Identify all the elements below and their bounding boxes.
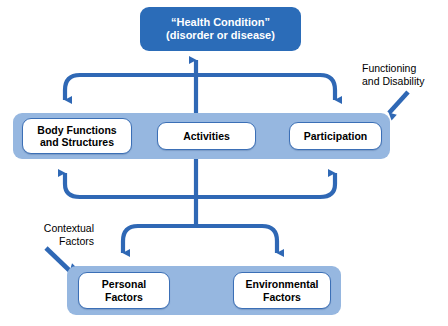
node-body-functions-line2: and Structures <box>37 136 116 149</box>
label-functioning-line1: Functioning <box>362 62 444 75</box>
label-contextual-line2: Factors <box>8 235 94 248</box>
node-environmental-factors-text: Environmental Factors <box>246 278 319 303</box>
node-personal-factors[interactable]: Personal Factors <box>78 272 170 309</box>
node-personal-factors-text: Personal Factors <box>102 278 146 303</box>
down-arrow-left-to-body-functions <box>65 75 196 100</box>
label-contextual-line1: Contextual <box>8 222 94 235</box>
health-condition-text: “Health Condition” (disorder or disease) <box>166 16 275 43</box>
node-environmental-factors-line1: Environmental <box>246 278 319 291</box>
node-participation-label: Participation <box>304 130 368 143</box>
pointer-functioning-and-disability <box>389 92 408 113</box>
up-arrow-left-from-body-functions <box>65 173 196 197</box>
node-personal-factors-line1: Personal <box>102 278 146 291</box>
pointer-contextual-factors <box>46 248 70 271</box>
node-personal-factors-line2: Factors <box>102 291 146 304</box>
down-arrow-to-personal-factors <box>123 226 196 253</box>
node-activities[interactable]: Activities <box>157 122 256 150</box>
node-participation[interactable]: Participation <box>289 122 382 150</box>
node-environmental-factors[interactable]: Environmental Factors <box>233 272 331 309</box>
node-body-functions-line1: Body Functions <box>37 124 116 137</box>
label-functioning-line2: and Disability <box>362 75 444 88</box>
node-activities-label: Activities <box>183 130 230 143</box>
health-condition-line2: (disorder or disease) <box>166 29 275 43</box>
label-functioning-and-disability: Functioning and Disability <box>362 62 444 87</box>
node-body-functions-text: Body Functions and Structures <box>37 124 116 149</box>
health-condition-box[interactable]: “Health Condition” (disorder or disease) <box>140 7 301 51</box>
down-arrow-to-environmental-factors <box>196 226 277 253</box>
label-contextual-factors: Contextual Factors <box>8 222 94 247</box>
diagram-canvas: “Health Condition” (disorder or disease)… <box>0 0 448 326</box>
health-condition-line1: “Health Condition” <box>166 16 275 30</box>
down-arrow-right-to-participation <box>196 75 335 100</box>
node-environmental-factors-line2: Factors <box>246 291 319 304</box>
node-body-functions-and-structures[interactable]: Body Functions and Structures <box>22 118 132 154</box>
up-arrow-right-from-participation <box>196 173 335 197</box>
